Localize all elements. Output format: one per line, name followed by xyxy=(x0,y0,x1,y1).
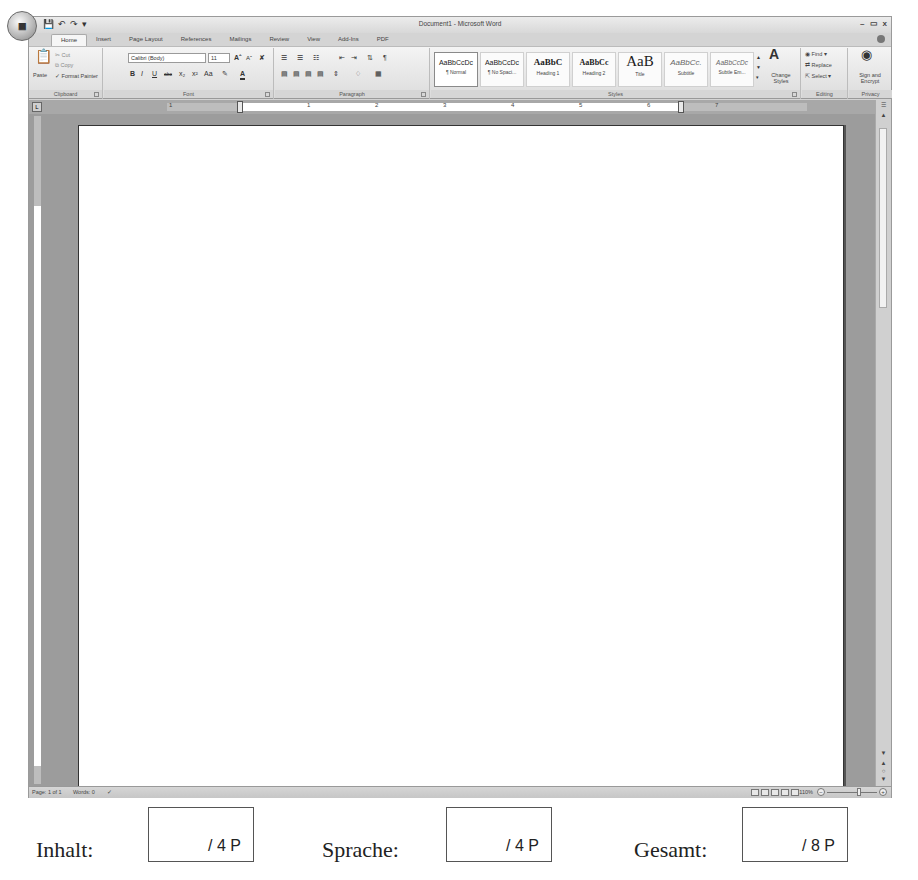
highlight-icon[interactable]: ✎ xyxy=(222,70,228,78)
office-button[interactable]: ▦ xyxy=(7,11,37,41)
vertical-ruler[interactable] xyxy=(34,116,41,784)
italic-button[interactable]: I xyxy=(141,70,143,78)
tab-references[interactable]: References xyxy=(172,34,221,46)
close-button[interactable]: x xyxy=(883,19,887,28)
show-formatting-icon[interactable]: ¶ xyxy=(383,54,387,62)
word-count[interactable]: Words: 0 xyxy=(73,789,95,795)
tab-home[interactable]: Home xyxy=(51,34,87,46)
outline-button[interactable] xyxy=(781,789,789,796)
tab-add-ins[interactable]: Add-Ins xyxy=(329,34,368,46)
bullets-icon[interactable]: ☰ xyxy=(281,54,287,62)
scrollbar-thumb[interactable] xyxy=(879,128,887,308)
full-screen-reading-button[interactable] xyxy=(761,789,769,796)
style-normal[interactable]: AaBbCcDc ¶ Normal xyxy=(434,52,478,87)
font-color-icon[interactable]: A xyxy=(240,70,245,80)
find-button[interactable]: ◉ Find ▾ xyxy=(805,51,827,57)
scroll-down-icon[interactable]: ▼ xyxy=(880,750,887,757)
score-box-inhalt[interactable]: / 4 P xyxy=(148,807,254,862)
score-box-gesamt[interactable]: / 8 P xyxy=(742,807,848,862)
previous-page-icon[interactable]: ▲ xyxy=(880,760,887,767)
right-indent-marker[interactable] xyxy=(678,101,684,113)
style-heading-2[interactable]: AaBbCc Heading 2 xyxy=(572,52,616,87)
sign-encrypt-icon[interactable]: ◉ xyxy=(861,51,872,59)
score-label-gesamt: Gesamt: xyxy=(634,837,707,863)
tab-review[interactable]: Review xyxy=(260,34,298,46)
editing-label: Editing xyxy=(802,90,847,98)
line-spacing-icon[interactable]: ⇕ xyxy=(333,70,339,78)
format-painter-button[interactable]: ✓ Format Painter xyxy=(55,73,98,79)
change-case-button[interactable]: Aa xyxy=(204,70,213,78)
next-page-icon[interactable]: ▼ xyxy=(880,776,887,783)
paragraph-launcher[interactable] xyxy=(421,92,426,97)
shrink-font-icon[interactable]: Aˇ xyxy=(246,54,252,62)
strikethrough-button[interactable]: abc xyxy=(164,70,172,78)
tab-mailings[interactable]: Mailings xyxy=(220,34,260,46)
print-layout-button[interactable] xyxy=(751,789,759,796)
document-page[interactable] xyxy=(78,125,844,787)
paste-icon[interactable]: 📋 xyxy=(35,52,52,60)
font-launcher[interactable] xyxy=(265,92,270,97)
web-layout-button[interactable] xyxy=(771,789,779,796)
horizontal-ruler[interactable]: 1 1 2 3 4 5 6 7 xyxy=(167,103,807,111)
borders-icon[interactable]: ▦ xyxy=(375,70,382,78)
change-styles-icon[interactable]: A xyxy=(769,50,779,58)
replace-button[interactable]: ⇄ Replace xyxy=(805,62,832,68)
help-icon[interactable] xyxy=(877,35,885,43)
multilevel-list-icon[interactable]: ☷ xyxy=(313,54,319,62)
vertical-scrollbar[interactable]: ☰ ▲ ▼ ▲ ○ ▼ xyxy=(875,100,891,786)
increase-indent-icon[interactable]: ⇥ xyxy=(351,54,357,62)
zoom-slider[interactable] xyxy=(827,792,877,793)
style-subtitle[interactable]: AaBbCc. Subtitle xyxy=(664,52,708,87)
shading-icon[interactable]: ♢ xyxy=(355,70,361,78)
score-value-sprache: / 4 P xyxy=(506,837,539,855)
tab-selector[interactable]: L xyxy=(32,102,42,112)
styles-launcher[interactable] xyxy=(792,92,797,97)
align-right-icon[interactable]: ▤ xyxy=(305,70,312,78)
subscript-button[interactable]: x₂ xyxy=(179,70,185,78)
sort-icon[interactable]: ⇅ xyxy=(367,54,373,62)
font-name-field[interactable]: Calibri (Body) xyxy=(128,53,206,63)
styles-scroll[interactable]: ▲▼▾ xyxy=(756,52,761,82)
left-indent-marker[interactable] xyxy=(237,101,243,113)
zoom-in-icon[interactable]: + xyxy=(879,788,887,796)
view-ruler-icon[interactable]: ☰ xyxy=(880,102,887,109)
proofing-icon[interactable]: ✓ xyxy=(107,789,112,795)
bold-button[interactable]: B xyxy=(130,70,135,78)
select-button[interactable]: ⇱ Select ▾ xyxy=(805,73,831,79)
grow-font-icon[interactable]: Aˆ xyxy=(234,54,241,62)
copy-button[interactable]: ⧉ Copy xyxy=(55,62,73,69)
minimize-button[interactable]: – xyxy=(860,19,864,28)
tab-page-layout[interactable]: Page Layout xyxy=(120,34,172,46)
select-browse-object-icon[interactable]: ○ xyxy=(880,768,887,775)
score-box-sprache[interactable]: / 4 P xyxy=(446,807,552,862)
zoom-slider-thumb[interactable] xyxy=(857,788,861,796)
underline-button[interactable]: U xyxy=(152,70,157,78)
zoom-level[interactable]: 110% xyxy=(799,789,813,795)
draft-button[interactable] xyxy=(791,789,799,796)
clipboard-launcher[interactable] xyxy=(94,92,99,97)
clear-format-icon[interactable]: ✘ xyxy=(259,54,265,62)
justify-icon[interactable]: ▤ xyxy=(317,70,324,78)
numbering-icon[interactable]: ☰ xyxy=(297,54,303,62)
page-count[interactable]: Page: 1 of 1 xyxy=(32,789,62,795)
zoom-out-icon[interactable]: − xyxy=(817,788,825,796)
sign-encrypt-button[interactable]: Sign and Encrypt xyxy=(850,72,890,84)
style-title[interactable]: AaB Title xyxy=(618,52,662,87)
align-left-icon[interactable]: ▤ xyxy=(281,70,288,78)
paste-button[interactable]: Paste xyxy=(33,72,47,78)
superscript-button[interactable]: x² xyxy=(192,70,198,78)
font-size-field[interactable]: 11 xyxy=(208,53,230,63)
decrease-indent-icon[interactable]: ⇤ xyxy=(339,54,345,62)
style-heading-1[interactable]: AaBbC Heading 1 xyxy=(526,52,570,87)
styles-label: Styles xyxy=(431,90,800,98)
maximize-button[interactable]: ▭ xyxy=(870,19,878,28)
style-subtle-emphasis[interactable]: AaBbCcDc Subtle Em... xyxy=(710,52,754,87)
align-center-icon[interactable]: ▤ xyxy=(293,70,300,78)
cut-button[interactable]: ✂ Cut xyxy=(55,52,70,58)
scroll-up-icon[interactable]: ▲ xyxy=(880,112,887,119)
tab-pdf[interactable]: PDF xyxy=(368,34,398,46)
change-styles-button[interactable]: Change Styles xyxy=(764,72,798,84)
style-no-spacing[interactable]: AaBbCcDc ¶ No Spaci... xyxy=(480,52,524,87)
tab-view[interactable]: View xyxy=(298,34,329,46)
tab-insert[interactable]: Insert xyxy=(87,34,120,46)
